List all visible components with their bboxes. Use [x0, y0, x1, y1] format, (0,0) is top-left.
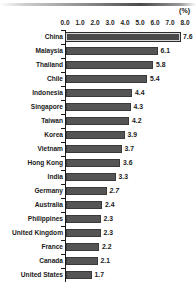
bar [66, 243, 99, 251]
bar-row: China7.6 [0, 30, 196, 44]
bar-row: Thailand5.8 [0, 58, 196, 72]
bar-row: Korea3.9 [0, 128, 196, 142]
bar-value-label: 7.6 [183, 33, 192, 41]
bar-value-label: 4.3 [134, 103, 143, 111]
bar-value-label: 2.2 [102, 243, 111, 251]
bar-row: Indonesia4.4 [0, 86, 196, 100]
axis-tick-mark [61, 58, 65, 59]
category-label: Indonesia [32, 89, 63, 97]
bar-row: Hong Kong3.6 [0, 156, 196, 170]
bar [66, 117, 129, 125]
bar-value-label: 1.7 [95, 271, 104, 279]
category-label: Malaysia [36, 47, 64, 55]
category-label: Vietnam [37, 145, 63, 153]
bar-value-label: 2.7 [110, 187, 119, 195]
bar-row: Singapore4.3 [0, 100, 196, 114]
bar [66, 215, 101, 223]
x-tick-label: 2.0 [90, 18, 99, 27]
category-label: Canada [39, 257, 63, 265]
plot-area: China7.6Malaysia6.1Thailand5.8Chile5.4In… [0, 30, 196, 286]
bar-value-label: 3.3 [119, 173, 128, 181]
bar-value-label: 3.7 [125, 145, 134, 153]
axis-tick-mark [61, 100, 65, 101]
bar-value-label: 4.4 [135, 89, 144, 97]
bar-row: Taiwan4.2 [0, 114, 196, 128]
axis-tick-mark [61, 44, 65, 45]
bar [66, 201, 102, 209]
bar-row: United States1.7 [0, 268, 196, 282]
bar-value-label: 2.3 [104, 229, 113, 237]
bar-row: Germany2.7 [0, 184, 196, 198]
x-tick-label: 5.0 [135, 18, 144, 27]
category-label: Hong Kong [27, 159, 63, 167]
x-tick-label: 1.0 [75, 18, 84, 27]
bar [66, 145, 122, 153]
axis-tick-mark [61, 86, 65, 87]
x-tick-label: 4.0 [120, 18, 129, 27]
bar-row: Philippines2.3 [0, 212, 196, 226]
bar-row: Vietnam3.7 [0, 142, 196, 156]
axis-tick-mark [61, 226, 65, 227]
category-label: Korea [44, 131, 63, 139]
bar [66, 229, 101, 237]
x-tick-label: 7.0 [165, 18, 174, 27]
axis-tick-mark [61, 114, 65, 115]
bar [66, 75, 147, 83]
bar-value-label: 2.3 [104, 215, 113, 223]
x-tick-label: 8.0 [180, 18, 189, 27]
bar-value-label: 2.4 [105, 201, 114, 209]
bar-row: France2.2 [0, 240, 196, 254]
bar-row: Canada2.1 [0, 254, 196, 268]
bar-value-label: 3.9 [128, 131, 137, 139]
category-label: China [45, 33, 63, 41]
axis-tick-mark [61, 212, 65, 213]
bar-value-label: 5.8 [156, 61, 165, 69]
axis-tick-mark [61, 240, 65, 241]
category-label: Thailand [36, 61, 63, 69]
bar [66, 89, 132, 97]
category-label: United States [21, 271, 63, 279]
bar [66, 271, 92, 279]
bar [66, 33, 180, 41]
bar [66, 47, 158, 55]
category-label: Singapore [31, 103, 63, 111]
x-axis-tick-labels: 0.01.02.03.04.05.06.07.08.0 [65, 18, 185, 28]
category-label: Germany [34, 187, 63, 195]
bar-row: India3.3 [0, 170, 196, 184]
bar-row: Chile5.4 [0, 72, 196, 86]
axis-tick-mark [61, 198, 65, 199]
category-label: Chile [47, 75, 63, 83]
category-label: Australia [35, 201, 63, 209]
bar-row: United Kingdom2.3 [0, 226, 196, 240]
axis-tick-mark [61, 254, 65, 255]
axis-tick-mark [61, 184, 65, 185]
bar-row: Malaysia6.1 [0, 44, 196, 58]
x-tick-label: 6.0 [150, 18, 159, 27]
axis-tick-mark [61, 156, 65, 157]
bar-chart: (%) 0.01.02.03.04.05.06.07.08.0 China7.6… [0, 0, 196, 289]
axis-tick-mark [61, 268, 65, 269]
bar [66, 159, 120, 167]
x-tick-label: 3.0 [105, 18, 114, 27]
bar-value-label: 5.4 [150, 75, 159, 83]
x-tick-label: 0.0 [60, 18, 69, 27]
bar-row: Australia2.4 [0, 198, 196, 212]
bar-value-label: 6.1 [161, 47, 170, 55]
bar [66, 173, 116, 181]
bar-value-label: 3.6 [123, 159, 132, 167]
axis-tick-mark [61, 72, 65, 73]
bar [66, 103, 131, 111]
bar [66, 187, 107, 195]
axis-tick-mark [61, 142, 65, 143]
bar [66, 61, 153, 69]
bar [66, 257, 98, 265]
top-divider-rule [0, 3, 196, 6]
category-label: United Kingdom [12, 229, 63, 237]
axis-tick-mark [61, 128, 65, 129]
axis-tick-mark [61, 170, 65, 171]
axis-unit-label: (%) [179, 7, 190, 15]
axis-tick-mark [61, 30, 65, 31]
category-label: Philippines [28, 215, 63, 223]
bar-value-label: 4.2 [132, 117, 141, 125]
bar [66, 131, 125, 139]
